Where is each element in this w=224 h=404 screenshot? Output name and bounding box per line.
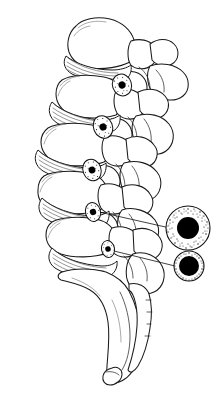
spine-illustration <box>0 0 224 404</box>
inset-foramen-normal-core <box>177 217 199 239</box>
inset-foramen-normal <box>166 206 210 250</box>
anatomical-figure <box>0 0 224 404</box>
transverse-process-l1 <box>150 40 178 67</box>
inset-foramen-narrowed <box>174 251 204 281</box>
inset-foramen-narrowed-core <box>179 256 199 276</box>
